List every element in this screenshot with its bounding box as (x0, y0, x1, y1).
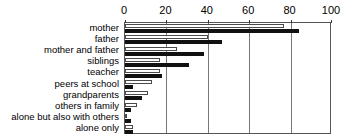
category-label-alone-but-also-with-others: alone but also with others (11, 112, 119, 122)
x-tick-label-80: 80 (283, 4, 295, 17)
x-tick-label-40: 40 (201, 4, 213, 17)
bar-series-2-alone-but-also-with-others (125, 119, 131, 123)
bar-series-1-teacher (125, 69, 160, 73)
category-label-siblings: siblings (87, 56, 119, 66)
bar-series-2-alone-only (125, 130, 133, 134)
category-label-teacher: teacher (87, 67, 119, 77)
category-label-father: father (95, 34, 119, 44)
x-tick-label-20: 20 (159, 4, 171, 17)
x-tick-label-100: 100 (322, 4, 340, 17)
gridline-60 (249, 23, 250, 133)
bar-series-1-mother (125, 24, 284, 28)
gridline-80 (291, 23, 292, 133)
category-label-others-in-family: others in family (55, 101, 119, 111)
bar-series-1-mother-and-father (125, 47, 177, 51)
category-label-mother-and-father: mother and father (44, 45, 119, 55)
category-label-peers-at-school: peers at school (55, 79, 119, 89)
bar-series-1-others-in-family (125, 103, 137, 107)
bar-series-1-peers-at-school (125, 80, 152, 84)
bar-series-2-others-in-family (125, 108, 131, 112)
bar-series-1-father (125, 35, 208, 39)
x-tick-mark-0 (125, 20, 126, 23)
bar-series-1-grandparents (125, 91, 148, 95)
category-label-alone-only: alone only (76, 123, 119, 133)
bar-series-1-siblings (125, 58, 160, 62)
bar-series-2-grandparents (125, 96, 142, 100)
bar-series-2-siblings (125, 63, 189, 67)
bar-chart: 020406080100 motherfathermother and fath… (0, 0, 347, 138)
bar-series-1-alone-only (125, 125, 133, 129)
bar-series-2-peers-at-school (125, 85, 133, 89)
bar-series-1-alone-but-also-with-others (125, 114, 127, 118)
x-tick-label-60: 60 (242, 4, 254, 17)
category-label-mother: mother (89, 23, 119, 33)
category-axis-labels: motherfathermother and fathersiblingstea… (0, 22, 122, 134)
bar-series-2-mother-and-father (125, 52, 204, 56)
bar-series-2-father (125, 40, 222, 44)
category-label-grandparents: grandparents (63, 90, 119, 100)
bar-series-2-teacher (125, 74, 162, 78)
x-axis-tick-labels: 020406080100 (0, 4, 347, 18)
x-tick-label-0: 0 (121, 4, 127, 17)
bar-series-2-mother (125, 29, 299, 33)
plot-area (124, 22, 331, 134)
x-tick-mark-100 (331, 20, 332, 23)
